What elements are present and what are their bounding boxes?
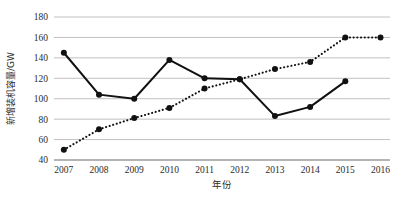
data-point-marker: [96, 126, 102, 132]
gridlines-group: [54, 17, 390, 160]
y-tick-label: 80: [39, 115, 49, 125]
y-tick-label: 100: [34, 94, 49, 104]
series-dotted-series: [61, 34, 384, 152]
data-point-marker: [202, 75, 208, 81]
data-point-marker: [342, 78, 348, 84]
x-tick-labels-group: 2007200820092010201120122013201420152016: [54, 165, 390, 175]
data-point-marker: [166, 57, 172, 63]
x-tick-label: 2014: [301, 165, 320, 175]
x-tick-label: 2009: [125, 165, 144, 175]
data-point-marker: [307, 59, 313, 65]
y-tick-label: 40: [39, 155, 49, 165]
data-point-marker: [272, 66, 278, 72]
data-point-marker: [61, 147, 67, 153]
series-line: [64, 37, 381, 149]
data-point-marker: [131, 96, 137, 102]
y-tick-label: 60: [39, 135, 49, 145]
data-point-marker: [237, 76, 243, 82]
x-tick-label: 2012: [230, 165, 249, 175]
y-tick-label: 160: [34, 33, 49, 43]
y-tick-labels-group: 406080100120140160180: [34, 12, 49, 165]
x-tick-label: 2008: [90, 165, 109, 175]
x-tick-label: 2016: [371, 165, 390, 175]
data-point-marker: [307, 104, 313, 110]
data-point-marker: [96, 92, 102, 98]
line-chart: 4060801001201401601802007200820092010201…: [0, 0, 401, 198]
data-point-marker: [378, 34, 384, 40]
x-tick-label: 2011: [195, 165, 214, 175]
series-line: [64, 53, 345, 116]
y-tick-label: 120: [34, 74, 49, 84]
data-point-marker: [342, 34, 348, 40]
x-tick-label: 2015: [336, 165, 355, 175]
y-tick-label: 140: [34, 53, 49, 63]
data-point-marker: [202, 86, 208, 92]
x-axis-title: 年份: [212, 179, 232, 190]
y-tick-label: 180: [34, 12, 49, 22]
x-tick-label: 2013: [265, 165, 284, 175]
chart-container: 4060801001201401601802007200820092010201…: [0, 0, 401, 198]
y-axis-title: 新增装机容量/GW: [5, 52, 16, 125]
data-point-marker: [272, 113, 278, 119]
data-point-marker: [61, 50, 67, 56]
data-point-marker: [131, 115, 137, 121]
x-tick-label: 2010: [160, 165, 179, 175]
x-tick-label: 2007: [54, 165, 73, 175]
data-point-marker: [166, 105, 172, 111]
series-solid-series: [61, 50, 348, 119]
